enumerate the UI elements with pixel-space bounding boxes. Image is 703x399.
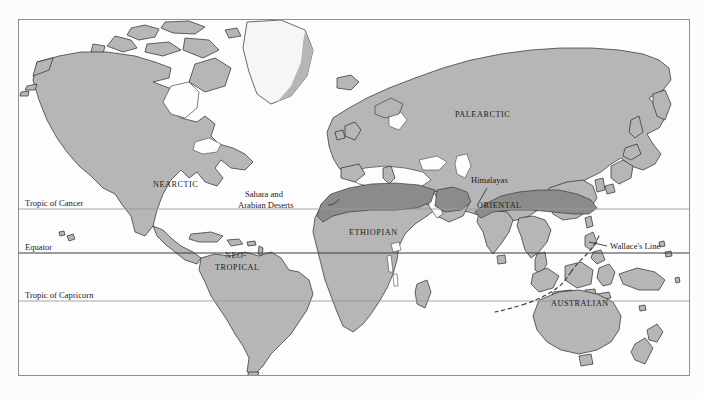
annotation-wallaces-line: Wallace's Line [610,241,660,251]
tierra-del-fuego [247,372,259,375]
annotation-sahara-line1: Sahara and [245,189,284,199]
sri-lanka [497,255,506,264]
annotation-sahara-line2: Arabian Deserts [238,200,294,210]
latitude-label-tropic-of-capricorn: Tropic of Capricorn [25,290,94,300]
latitude-label-equator: Equator [25,242,52,252]
realm-label-neotropical-line2: TROPICAL [215,263,259,272]
realm-label-neotropical-line1: NEO- [225,251,247,260]
korea [595,178,605,192]
puerto-rico [247,241,256,246]
japan-kyushu [605,184,615,194]
tasmania [579,354,593,366]
realm-label-oriental: ORIENTAL [477,201,522,210]
realm-label-ethiopian: ETHIOPIAN [349,228,398,237]
lesser-antilles [258,246,263,256]
realm-label-australian: AUSTRALIAN [551,299,609,308]
latitude-label-tropic-of-cancer: Tropic of Cancer [25,198,84,208]
map-figure: Tropic of Cancer Equator Tropic of Capri… [0,0,703,399]
annotation-himalayas: Himalayas [471,175,508,185]
realm-label-nearctic: NEARCTIC [153,180,198,189]
lake-malawi [393,274,398,286]
ireland [335,130,345,140]
pacific-island-1 [639,305,646,311]
lake-victoria [391,242,401,252]
realm-label-palearctic: PALEARCTIC [455,110,510,119]
pacific-island-2 [665,251,672,257]
map-frame: Tropic of Cancer Equator Tropic of Capri… [18,19,690,376]
hawaii-2 [59,231,65,236]
pacific-island-3 [675,277,680,283]
world-map-svg: Tropic of Cancer Equator Tropic of Capri… [19,20,689,375]
aleutian-2 [20,91,29,96]
